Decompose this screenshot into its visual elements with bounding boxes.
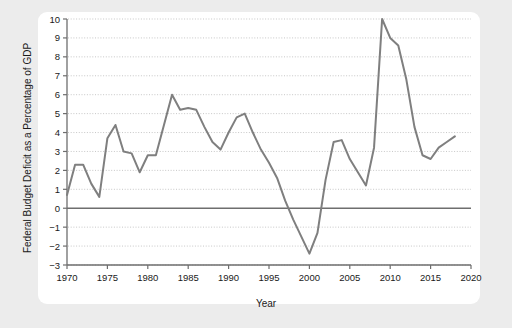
ghost-text-bottom [0,312,512,328]
y-tick-label: 0 [55,203,60,214]
y-axis-tick-labels: −3−2−1012345678910 [49,14,60,271]
y-tick-label: 8 [55,51,60,62]
y-tick-label: −3 [49,260,60,271]
y-tick-label: 1 [55,184,60,195]
y-tick-label: −2 [49,241,60,252]
x-tick-label: 2000 [299,272,320,283]
y-tick-label: 2 [55,165,60,176]
y-axis-title: Federal Budget Deficit as a Percentage o… [22,43,33,253]
y-tick-label: 9 [55,32,60,43]
chart-page: −3−2−1012345678910 197019751980198519901… [0,0,512,328]
x-axis-title: Year [256,298,277,309]
x-tick-label: 2020 [460,272,481,283]
grid-lines [68,19,471,265]
chart-figure: −3−2−1012345678910 197019751980198519901… [0,0,512,328]
x-tick-label: 1990 [218,272,239,283]
x-tick-label: 2010 [380,272,401,283]
x-tick-label: 1980 [137,272,158,283]
x-tick-label: 1985 [178,272,199,283]
x-tick-label: 2015 [420,272,441,283]
y-tick-label: −1 [49,222,60,233]
x-tick-label: 1975 [97,272,118,283]
y-tick-label: 3 [55,146,60,157]
x-tick-label: 1995 [258,272,279,283]
line-chart: −3−2−1012345678910 197019751980198519901… [0,0,512,328]
x-axis-tick-labels: 1970197519801985199019952000200520102015… [56,272,481,283]
y-tick-label: 6 [55,89,60,100]
x-tick-label: 1970 [56,272,77,283]
deficit-series-line [67,19,455,254]
y-tick-label: 7 [55,70,60,81]
x-tick-label: 2005 [339,272,360,283]
y-tick-label: 5 [55,108,60,119]
y-tick-label: 4 [55,127,60,138]
y-tick-label: 10 [49,14,60,25]
